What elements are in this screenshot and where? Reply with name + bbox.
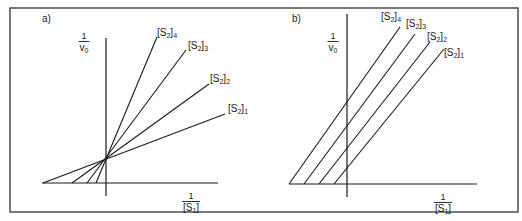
line-label-s2-1: [S2]1: [228, 103, 248, 115]
y-axis-label-numerator: 1: [81, 31, 86, 41]
plot-line-s2-3: [304, 34, 415, 184]
line-label-s2-3: [S2]3: [406, 18, 426, 30]
line-label-s2-1: [S2]1: [444, 47, 464, 59]
y-axis-label-denominator: v0: [80, 42, 89, 54]
x-axis-label-denominator: [S1]: [183, 202, 199, 214]
line-label-s2-2: [S2]2: [427, 31, 447, 43]
line-label-s2-2: [S2]2: [210, 73, 230, 85]
x-axis-label: 1[S1]: [182, 191, 200, 214]
plot-line-s2-3: [87, 50, 186, 183]
double-reciprocal-plots: a)1v01[S1][S2]4[S2]3[S2]2[S2]1b)1v01[S1]…: [0, 0, 522, 221]
panel-label-a: a): [42, 13, 51, 24]
line-label-s2-3: [S2]3: [188, 40, 208, 52]
y-axis-label-denominator: v0: [329, 42, 338, 54]
plot-line-s2-4: [96, 37, 157, 183]
x-axis-label-denominator: [S1]: [435, 203, 451, 215]
plot-line-s2-2: [72, 84, 209, 183]
line-label-s2-4: [S2]4: [157, 27, 177, 39]
x-axis-label-numerator: 1: [440, 192, 445, 202]
plot-line-s2-4: [289, 27, 400, 184]
y-axis-label: 1v0: [79, 31, 90, 54]
plot-line-s2-1: [43, 114, 225, 183]
x-axis-label-numerator: 1: [188, 191, 193, 201]
y-axis-label-numerator: 1: [330, 31, 335, 41]
panel-label-b: b): [292, 13, 301, 24]
panel-b: b)1v01[S1][S2]4[S2]3[S2]2[S2]1: [289, 11, 477, 215]
panel-a: a)1v01[S1][S2]4[S2]3[S2]2[S2]1: [42, 13, 248, 214]
x-axis-label: 1[S1]: [434, 192, 452, 215]
y-axis-label: 1v0: [328, 31, 339, 54]
line-label-s2-4: [S2]4: [381, 11, 401, 23]
figure-stage: a)1v01[S1][S2]4[S2]3[S2]2[S2]1b)1v01[S1]…: [0, 0, 522, 221]
